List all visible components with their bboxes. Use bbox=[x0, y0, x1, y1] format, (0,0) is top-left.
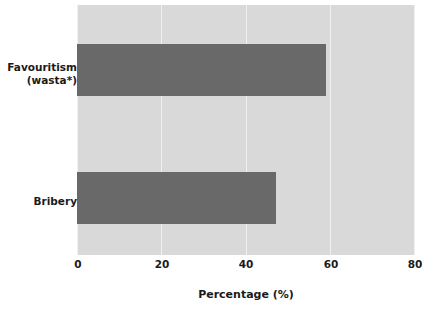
y-label-favouritism: Favouritism (wasta*) bbox=[3, 61, 77, 86]
x-tick-0: 0 bbox=[74, 258, 81, 270]
y-label-bribery-line1: Bribery bbox=[34, 195, 77, 207]
x-tick-80: 80 bbox=[408, 258, 423, 270]
x-axis-tick-labels: 0 20 40 60 80 bbox=[0, 258, 431, 276]
x-tick-60: 60 bbox=[324, 258, 339, 270]
plot-area bbox=[77, 5, 415, 255]
bar-bribery[interactable] bbox=[77, 172, 276, 224]
x-tick-40: 40 bbox=[239, 258, 254, 270]
y-label-favouritism-line2: (wasta*) bbox=[27, 74, 77, 86]
y-label-bribery: Bribery bbox=[3, 195, 77, 208]
bar-chart: Favouritism (wasta*) Bribery 0 20 40 60 … bbox=[0, 0, 431, 319]
x-tick-20: 20 bbox=[155, 258, 170, 270]
y-label-favouritism-line1: Favouritism bbox=[7, 61, 77, 73]
bar-favouritism[interactable] bbox=[77, 44, 326, 96]
gridline-80 bbox=[414, 5, 415, 255]
y-axis-category-labels: Favouritism (wasta*) Bribery bbox=[0, 5, 77, 255]
gridline-60 bbox=[330, 5, 331, 255]
x-axis-title: Percentage (%) bbox=[77, 288, 415, 301]
